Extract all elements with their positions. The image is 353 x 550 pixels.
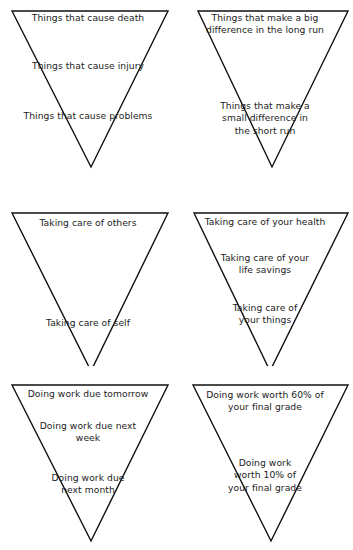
triangle-care: Taking care of others Taking care of sel… xyxy=(0,183,176,366)
triangle-labels: Taking care of your health Taking care o… xyxy=(177,183,353,366)
triangle-label: Things that make a big difference in the… xyxy=(181,12,349,37)
triangle-work-deadlines: Doing work due tomorrow Doing work due n… xyxy=(0,367,176,550)
triangle-label: Doing work due next week xyxy=(4,420,172,445)
triangle-labels: Taking care of others Taking care of sel… xyxy=(0,183,176,366)
triangle-labels: Things that cause death Things that caus… xyxy=(0,0,176,183)
triangle-label: Doing work worth 10% of your final grade xyxy=(181,457,349,494)
triangle-consequences: Things that cause death Things that caus… xyxy=(0,0,176,183)
triangle-work-weighting: Doing work worth 60% of your final grade… xyxy=(177,367,353,550)
triangle-label: Things that cause problems xyxy=(4,110,172,122)
triangle-label: Things that cause injury xyxy=(4,60,172,72)
triangle-label: Doing work due next month xyxy=(4,472,172,497)
triangle-label: Taking care of others xyxy=(4,217,172,229)
triangle-care-of-assets: Taking care of your health Taking care o… xyxy=(177,183,353,366)
triangle-grid: Things that cause death Things that caus… xyxy=(0,0,353,550)
triangle-label: Taking care of your things xyxy=(181,302,349,327)
triangle-label: Things that make a small difference in t… xyxy=(181,100,349,137)
triangle-label: Taking care of your life savings xyxy=(181,252,349,277)
triangle-labels: Things that make a big difference in the… xyxy=(177,0,353,183)
triangle-label: Taking care of self xyxy=(4,317,172,329)
triangle-labels: Doing work due tomorrow Doing work due n… xyxy=(0,367,176,550)
triangle-label: Doing work due tomorrow xyxy=(4,388,172,400)
triangle-labels: Doing work worth 60% of your final grade… xyxy=(177,367,353,550)
triangle-label: Doing work worth 60% of your final grade xyxy=(181,389,349,414)
triangle-label: Things that cause death xyxy=(4,12,172,24)
triangle-impact-horizon: Things that make a big difference in the… xyxy=(177,0,353,183)
triangle-label: Taking care of your health xyxy=(181,216,349,228)
